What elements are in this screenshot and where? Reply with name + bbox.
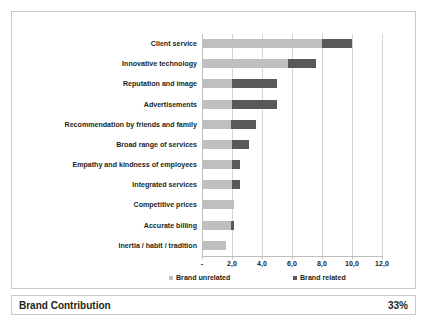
- x-tick-mark: [322, 256, 323, 259]
- summary-value: 33%: [388, 300, 408, 311]
- bar-segment-brand-related[interactable]: [231, 120, 257, 129]
- x-tick-mark: [352, 256, 353, 259]
- brand-contribution-bar: Brand Contribution 33%: [11, 295, 416, 315]
- category-label: Client service: [151, 34, 197, 54]
- legend-item-brand-unrelated[interactable]: Brand unrelated: [169, 274, 230, 282]
- summary-title: Brand Contribution: [19, 300, 111, 311]
- legend-item-brand-related[interactable]: Brand related: [293, 274, 346, 282]
- x-tick-mark: [202, 256, 203, 259]
- x-tick-mark: [382, 256, 383, 259]
- category-label: Inertia / habit / tradition: [119, 236, 197, 256]
- bar-segment-brand-related[interactable]: [322, 39, 352, 48]
- bar-row: Client service: [202, 34, 382, 54]
- stacked-bar[interactable]: [202, 100, 277, 109]
- x-tick-label: -: [201, 260, 203, 268]
- bar-row: Reputation and image: [202, 74, 382, 94]
- bar-row: Empathy and kindness of employees: [202, 155, 382, 175]
- bar-segment-brand-unrelated[interactable]: [202, 100, 232, 109]
- stacked-bar[interactable]: [202, 241, 226, 250]
- bar-row: Innovative technology: [202, 54, 382, 74]
- chart-legend: Brand unrelated Brand related: [12, 274, 415, 286]
- x-tick-label: 2,0: [227, 260, 237, 268]
- stacked-bar[interactable]: [202, 79, 277, 88]
- category-label: Empathy and kindness of employees: [72, 155, 197, 175]
- chart-screenshot: Client serviceInnovative technologyReput…: [0, 0, 429, 324]
- bar-segment-brand-unrelated[interactable]: [202, 160, 232, 169]
- bar-segment-brand-related[interactable]: [232, 180, 240, 189]
- bar-segment-brand-unrelated[interactable]: [202, 221, 231, 230]
- stacked-bar[interactable]: [202, 160, 240, 169]
- legend-swatch-icon-brand-related: [293, 276, 297, 280]
- category-label: Accurate billing: [144, 216, 197, 236]
- bar-rows: Client serviceInnovative technologyReput…: [202, 34, 382, 256]
- legend-label-brand-unrelated: Brand unrelated: [176, 274, 230, 282]
- category-label: Advertisements: [144, 95, 197, 115]
- bar-segment-brand-unrelated[interactable]: [202, 59, 288, 68]
- chart-panel: Client serviceInnovative technologyReput…: [11, 11, 416, 289]
- legend-swatch-icon-brand-unrelated: [169, 276, 173, 280]
- stacked-bar[interactable]: [202, 140, 249, 149]
- category-label: Integrated services: [132, 175, 197, 195]
- category-label: Broad range of services: [116, 135, 197, 155]
- category-label: Competitive prices: [134, 195, 197, 215]
- bar-segment-brand-related[interactable]: [288, 59, 317, 68]
- bar-segment-brand-unrelated[interactable]: [202, 120, 231, 129]
- x-tick-label: 10,0: [345, 260, 359, 268]
- bar-row: Advertisements: [202, 95, 382, 115]
- stacked-bar[interactable]: [202, 221, 234, 230]
- bar-row: Broad range of services: [202, 135, 382, 155]
- x-tick-mark: [232, 256, 233, 259]
- category-label: Innovative technology: [122, 54, 197, 74]
- bar-row: Integrated services: [202, 175, 382, 195]
- bar-segment-brand-unrelated[interactable]: [202, 241, 226, 250]
- bar-segment-brand-related[interactable]: [231, 221, 234, 230]
- gridline: [382, 34, 383, 256]
- bar-segment-brand-unrelated[interactable]: [202, 39, 322, 48]
- bar-segment-brand-unrelated[interactable]: [202, 140, 232, 149]
- stacked-bar[interactable]: [202, 180, 240, 189]
- plot-area: Client serviceInnovative technologyReput…: [202, 34, 382, 256]
- bar-segment-brand-related[interactable]: [232, 79, 277, 88]
- x-tick-label: 12,0: [375, 260, 389, 268]
- x-tick-label: 4,0: [257, 260, 267, 268]
- bar-row: Inertia / habit / tradition: [202, 236, 382, 256]
- stacked-bar[interactable]: [202, 39, 352, 48]
- x-tick-mark: [262, 256, 263, 259]
- x-tick-label: 8,0: [317, 260, 327, 268]
- bar-segment-brand-unrelated[interactable]: [202, 79, 232, 88]
- bar-segment-brand-unrelated[interactable]: [202, 200, 234, 209]
- x-tick-label: 6,0: [287, 260, 297, 268]
- bar-segment-brand-related[interactable]: [232, 160, 240, 169]
- bar-row: Recommendation by friends and family: [202, 115, 382, 135]
- stacked-bar[interactable]: [202, 120, 256, 129]
- x-tick-mark: [292, 256, 293, 259]
- bar-segment-brand-related[interactable]: [232, 100, 277, 109]
- bar-segment-brand-unrelated[interactable]: [202, 180, 232, 189]
- stacked-bar[interactable]: [202, 200, 234, 209]
- bar-segment-brand-related[interactable]: [232, 140, 249, 149]
- bar-row: Competitive prices: [202, 195, 382, 215]
- stacked-bar[interactable]: [202, 59, 316, 68]
- bar-row: Accurate billing: [202, 216, 382, 236]
- legend-label-brand-related: Brand related: [300, 274, 346, 282]
- category-label: Recommendation by friends and family: [65, 115, 197, 135]
- category-label: Reputation and image: [123, 74, 197, 94]
